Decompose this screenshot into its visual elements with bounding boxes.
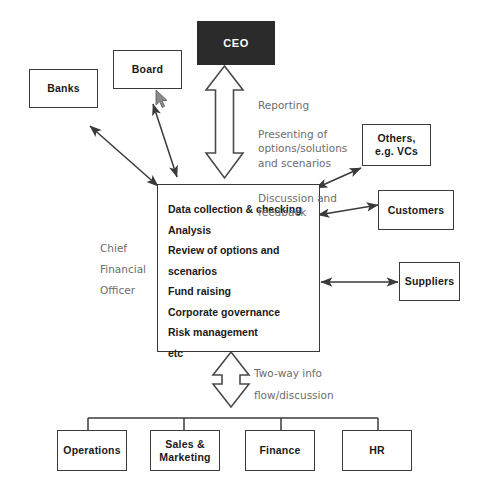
box-sales-marketing-label: Sales & Marketing — [159, 438, 210, 464]
box-customers[interactable]: Customers — [378, 190, 454, 230]
arrow-board-cfo — [153, 104, 177, 177]
annotation-cfo-role-label: Chief Financial Officer — [100, 238, 146, 301]
annotation-line-discussion: Discussion and feedback — [258, 191, 347, 220]
box-suppliers[interactable]: Suppliers — [399, 262, 460, 301]
cfo-item: Risk management — [168, 322, 319, 343]
box-suppliers-label: Suppliers — [405, 275, 455, 288]
box-board[interactable]: Board — [113, 50, 182, 89]
diagram-canvas: CEO Board Banks Others, e.g. VCs Custome… — [0, 0, 486, 501]
arrow-banks-cfo — [90, 126, 158, 186]
box-banks-label: Banks — [47, 82, 80, 95]
box-board-label: Board — [132, 63, 163, 76]
annotation-line-presenting: Presenting of options/solutions and scen… — [258, 127, 347, 171]
box-customers-label: Customers — [388, 204, 445, 217]
box-operations-label: Operations — [63, 444, 120, 457]
mouse-pointer-icon — [155, 89, 169, 109]
block-arrow-ceo-cfo — [206, 66, 243, 178]
box-others-vcs[interactable]: Others, e.g. VCs — [362, 124, 431, 166]
cfo-item: Fund raising — [168, 281, 319, 302]
cfo-item: scenarios — [168, 261, 319, 282]
box-banks[interactable]: Banks — [29, 69, 98, 108]
annotation-ceo-reporting: Reporting Presenting of options/solution… — [258, 83, 347, 234]
box-hr-label: HR — [369, 444, 385, 457]
box-others-vcs-label: Others, e.g. VCs — [375, 132, 418, 158]
box-sales-marketing[interactable]: Sales & Marketing — [150, 430, 220, 471]
box-operations[interactable]: Operations — [57, 430, 127, 471]
box-ceo[interactable]: CEO — [197, 21, 275, 65]
box-hr[interactable]: HR — [342, 430, 412, 471]
box-ceo-label: CEO — [223, 37, 249, 50]
box-finance-label: Finance — [259, 444, 300, 457]
box-finance[interactable]: Finance — [245, 430, 315, 471]
cfo-item: Review of options and — [168, 240, 319, 261]
cfo-item: Corporate governance — [168, 302, 319, 323]
annotation-two-way-flow: Two-way info flow/discussion — [254, 362, 334, 406]
cfo-item: etc — [168, 343, 319, 364]
department-bus — [88, 418, 378, 430]
annotation-line-reporting: Reporting — [258, 98, 347, 113]
